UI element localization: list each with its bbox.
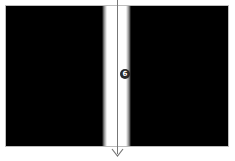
number-marker: 6 xyxy=(120,69,130,79)
vertical-arrow-line xyxy=(117,0,118,154)
right-opaque-panel xyxy=(131,6,228,146)
arrow-down-icon xyxy=(111,148,124,157)
left-opaque-panel xyxy=(6,6,102,146)
